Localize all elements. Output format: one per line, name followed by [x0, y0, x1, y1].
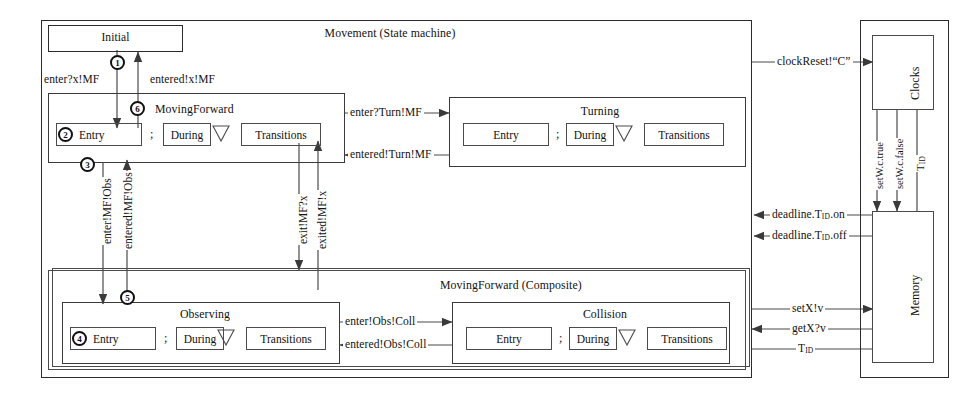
edge-label-enter-mf-obs: enter!MF!Obs: [101, 177, 113, 245]
turning-transitions-cell[interactable]: Transitions: [644, 123, 724, 146]
state-movingforward-title: MovingForward: [155, 102, 305, 117]
edge-label-entered-x-mf: entered!x!MF: [150, 73, 215, 85]
edge-label-exited-mf-x: exited!MF!x: [316, 190, 328, 250]
edge-label-tid-mem: TID: [796, 342, 815, 355]
state-machine-diagram: Movement (State machine) Initial 1 6 ent…: [0, 0, 963, 399]
edge-label-setx: setX!v: [790, 302, 825, 314]
state-observing-title: Observing: [140, 307, 270, 322]
marker-2: 2: [58, 127, 73, 142]
collision-separator: ;: [559, 331, 562, 346]
marker-5: 5: [120, 290, 135, 305]
edge-label-enter-turn-mf: enter?Turn!MF: [348, 106, 424, 118]
marker-1: 1: [110, 55, 125, 70]
state-initial-label: Initial: [48, 31, 183, 43]
edge-label-exit-mf-x: exit!MF?x: [297, 194, 309, 245]
edge-label-tid-clock: TID: [914, 155, 927, 172]
clocks-label: Clocks: [908, 67, 923, 100]
edge-label-entered-turn-mf: entered!Turn!MF: [348, 148, 434, 160]
mf-transitions-cell[interactable]: Transitions: [241, 123, 321, 146]
movement-title: Movement (State machine): [300, 26, 480, 41]
collision-transitions-cell[interactable]: Transitions: [647, 327, 727, 350]
mf-separator: ;: [150, 127, 153, 142]
edge-label-entered-obs-coll: entered!Obs!Coll: [343, 338, 428, 350]
observing-separator: ;: [164, 331, 167, 346]
marker-3: 3: [80, 157, 95, 172]
turning-during-cell[interactable]: During: [566, 123, 614, 146]
memory-label: Memory: [908, 275, 923, 316]
marker-4: 4: [72, 331, 87, 346]
edge-label-enter-x-mf: enter?x!MF: [44, 73, 99, 85]
observing-during-cell[interactable]: During: [176, 327, 224, 350]
edge-label-clock-reset: clockReset!“C”: [775, 55, 853, 67]
observing-transitions-cell[interactable]: Transitions: [246, 327, 326, 350]
edge-label-entered-mf-obs: entered!MF!Obs: [122, 171, 134, 250]
edge-label-deadline-on: deadline.TID.on: [770, 208, 847, 221]
edge-label-enter-obs-coll: enter!Obs!Coll: [343, 315, 417, 327]
turning-separator: ;: [556, 127, 559, 142]
state-collision-title: Collision: [540, 307, 670, 322]
composite-title: MovingForward (Composite): [440, 278, 700, 293]
clocks-block[interactable]: [872, 35, 934, 110]
memory-block[interactable]: [872, 211, 934, 363]
mf-during-cell[interactable]: During: [163, 123, 211, 146]
edge-label-setw-true: setW.c.true: [874, 141, 885, 190]
edge-label-getx: getX?v: [790, 322, 828, 334]
edge-label-setw-false: setW.c.false: [894, 138, 905, 190]
collision-entry-cell[interactable]: Entry: [466, 327, 552, 350]
state-turning-title: Turning: [540, 104, 660, 119]
edge-label-deadline-off: deadline.TID.off: [770, 229, 849, 242]
marker-6: 6: [130, 101, 145, 116]
turning-entry-cell[interactable]: Entry: [463, 123, 549, 146]
collision-during-cell[interactable]: During: [569, 327, 617, 350]
